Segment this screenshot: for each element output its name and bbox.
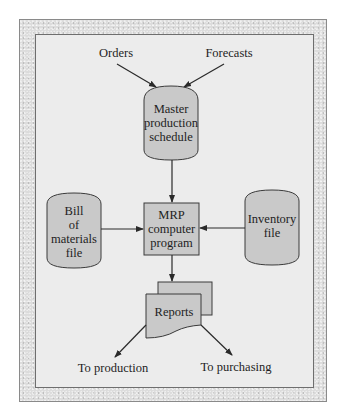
to-production-arrow (115, 325, 146, 357)
orders-arrow (117, 64, 156, 87)
reports-label: Reports (155, 305, 194, 319)
to-purchasing-arrow (201, 325, 232, 355)
bom-line-3: materials (51, 232, 97, 246)
orders-label: Orders (99, 46, 133, 60)
mrp-line-2: computer (148, 222, 196, 236)
bom-line-1: Bill (65, 204, 84, 218)
mrp-line-3: program (150, 236, 193, 250)
bom-line-2: of (69, 218, 80, 232)
inventory-line-2: file (264, 226, 281, 240)
forecasts-label: Forecasts (205, 46, 252, 60)
forecasts-arrow (184, 64, 224, 87)
master-schedule-line-2: production (144, 116, 199, 130)
inventory-line-1: Inventory (248, 212, 297, 226)
mrp-flow-diagram: Orders Forecasts Master production sched… (0, 0, 341, 414)
master-schedule-line-3: schedule (149, 130, 193, 144)
to-purchasing-label: To purchasing (201, 360, 273, 374)
to-production-label: To production (78, 361, 149, 375)
bom-line-4: file (66, 246, 83, 260)
mrp-line-1: MRP (158, 208, 184, 222)
master-schedule-line-1: Master (154, 102, 190, 116)
